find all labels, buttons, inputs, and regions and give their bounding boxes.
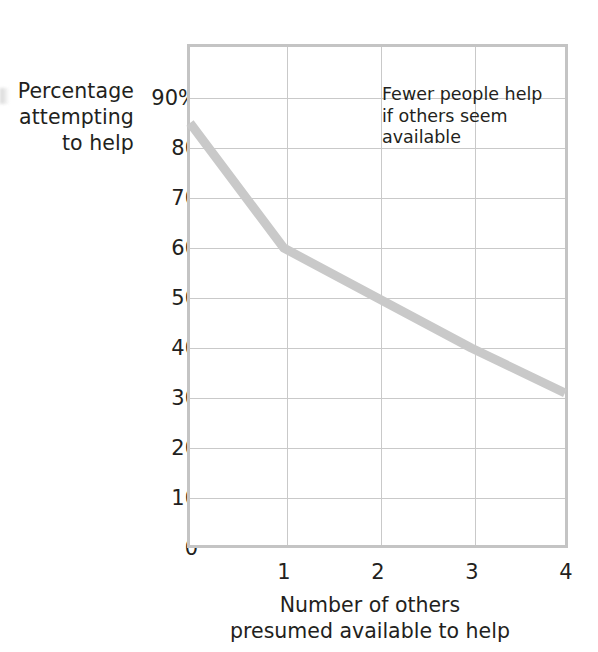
x-tick-label-3: 3 (452, 562, 492, 583)
chart-annotation-line-1: Fewer people help (382, 84, 572, 106)
y-axis-title-line-3: to help (6, 130, 134, 156)
chart-annotation-line-3: available (382, 127, 572, 149)
chart-annotation: Fewer people help if others seem availab… (382, 84, 572, 149)
chart-annotation-line-2: if others seem (382, 106, 572, 128)
x-tick-label-2: 2 (358, 562, 398, 583)
y-axis-title-line-2: attempting (6, 104, 134, 130)
x-tick-label-4: 4 (546, 562, 586, 583)
x-tick-label-1: 1 (264, 562, 304, 583)
x-axis-title-line-1: Number of others (150, 592, 590, 618)
y-axis-title-line-1: Percentage (6, 78, 134, 104)
chart-figure: Percentage attempting to help 90% 80 70 … (0, 0, 598, 652)
x-axis-title-line-2: presumed available to help (150, 618, 590, 644)
y-axis-title: Percentage attempting to help (6, 78, 134, 156)
x-axis-title: Number of others presumed available to h… (150, 592, 590, 644)
